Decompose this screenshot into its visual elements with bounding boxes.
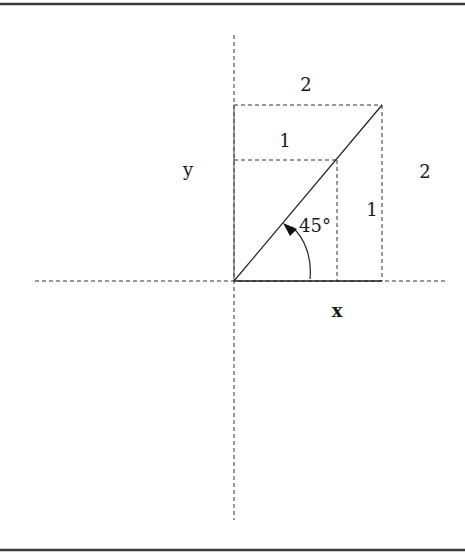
label-inner-height: 1 bbox=[366, 199, 377, 220]
arrow-head-icon bbox=[283, 223, 297, 236]
label-x-axis: x bbox=[332, 300, 343, 321]
label-right-height: 2 bbox=[419, 161, 430, 182]
diagram-canvas: 2 1 y 2 1 45° x bbox=[0, 0, 465, 553]
diagram-frame: 2 1 y 2 1 45° x bbox=[0, 0, 465, 553]
label-top-width: 2 bbox=[300, 74, 311, 95]
label-angle: 45° bbox=[299, 215, 331, 236]
label-inner-width: 1 bbox=[279, 130, 290, 151]
label-y-axis: y bbox=[182, 159, 194, 180]
